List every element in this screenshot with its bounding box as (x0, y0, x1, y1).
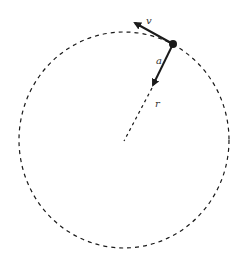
radius-label: r (155, 98, 161, 109)
object-dot (169, 40, 177, 48)
velocity-arrow (135, 23, 173, 44)
acceleration-label: a (156, 55, 162, 66)
circular-motion-diagram: v a r (0, 0, 246, 263)
radius-line (124, 88, 152, 141)
velocity-label: v (146, 15, 152, 26)
